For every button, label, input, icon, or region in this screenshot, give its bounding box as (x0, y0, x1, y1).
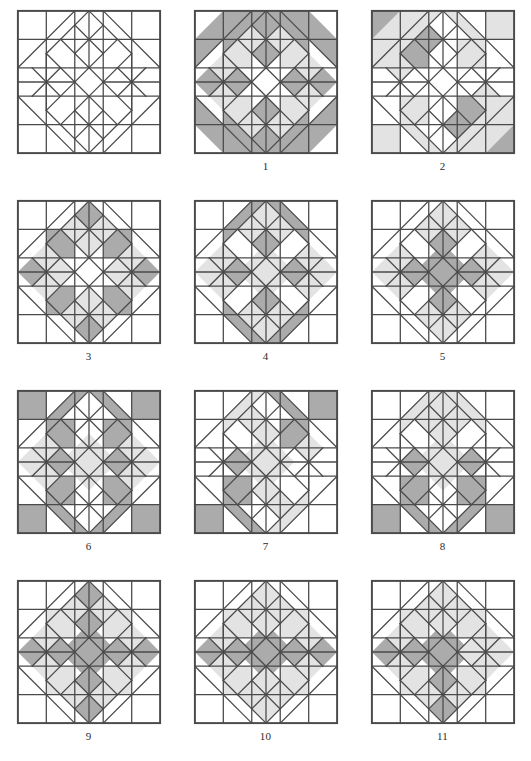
quilt-block-diagram (192, 388, 340, 536)
quilt-patch (17, 391, 45, 419)
block-caption: 1 (263, 160, 269, 172)
block-8: 8 (354, 380, 531, 570)
block-2: 2 (354, 0, 531, 190)
block-caption: 11 (437, 730, 448, 742)
quilt-block-diagram (369, 8, 517, 156)
quilt-block-diagram (369, 388, 517, 536)
block-caption: 10 (260, 730, 271, 742)
quilt-block-diagram (15, 8, 163, 156)
quilt-patch (371, 125, 399, 153)
quilt-block-diagram (369, 578, 517, 726)
quilt-patch (308, 391, 336, 419)
quilt-block-diagram (15, 578, 163, 726)
block-5: 5 (354, 190, 531, 380)
quilt-block-diagram (369, 198, 517, 346)
block-7: 7 (177, 380, 354, 570)
quilt-patch (131, 391, 159, 419)
block-caption: 8 (440, 540, 446, 552)
block-10: 10 (177, 570, 354, 760)
block-grid: 1234567891011 (0, 0, 531, 760)
quilt-block-diagram (15, 388, 163, 536)
quilt-block-diagram (192, 8, 340, 156)
block-9: 9 (0, 570, 177, 760)
block-4: 4 (177, 190, 354, 380)
quilt-block-diagram (192, 578, 340, 726)
quilt-patch (17, 505, 45, 533)
block-6: 6 (0, 380, 177, 570)
quilt-patch (485, 505, 513, 533)
quilt-block-diagram (192, 198, 340, 346)
quilt-patch (194, 505, 222, 533)
block-1: 1 (177, 0, 354, 190)
figure-plate: 1234567891011 (0, 0, 531, 761)
block-caption: 5 (440, 350, 446, 362)
block-caption: 4 (263, 350, 269, 362)
base-outline-block (0, 0, 177, 190)
quilt-patch (131, 505, 159, 533)
block-caption: 6 (86, 540, 92, 552)
block-caption: 7 (263, 540, 269, 552)
block-11: 11 (354, 570, 531, 760)
block-caption: 9 (86, 730, 92, 742)
quilt-patch (485, 11, 513, 39)
block-caption: 2 (440, 160, 446, 172)
quilt-block-diagram (15, 198, 163, 346)
quilt-patch (371, 505, 399, 533)
block-3: 3 (0, 190, 177, 380)
block-caption: 3 (86, 350, 92, 362)
